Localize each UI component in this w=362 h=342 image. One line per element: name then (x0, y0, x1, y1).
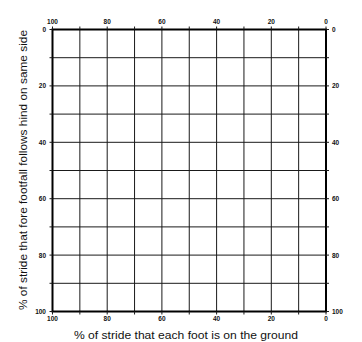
y-left-tick-40: 40 (39, 139, 47, 146)
y-right-tick-40: 40 (332, 139, 340, 146)
y-right-tick-60: 60 (332, 195, 340, 202)
y-axis-label: % of stride that fore footfall follows h… (17, 30, 29, 310)
x-top-tick-80: 80 (104, 18, 112, 25)
y-left-tick-60: 60 (39, 195, 47, 202)
y-right-tick-80: 80 (332, 252, 340, 259)
x-bottom-tick-60: 60 (158, 315, 166, 322)
x-bottom-tick-0: 0 (324, 315, 328, 322)
y-left-tick-80: 80 (39, 252, 47, 259)
y-axis-right-tick-labels: 0 20 40 60 80 100 (332, 26, 343, 315)
y-left-tick-20: 20 (39, 82, 47, 89)
y-axis-left-tick-labels: 0 20 40 60 80 100 (35, 26, 46, 315)
x-bottom-tick-40: 40 (213, 315, 221, 322)
y-right-tick-0: 0 (332, 26, 336, 33)
grid-lines (53, 30, 327, 312)
x-bottom-tick-20: 20 (268, 315, 276, 322)
y-right-tick-20: 20 (332, 82, 340, 89)
x-bottom-tick-80: 80 (104, 315, 112, 322)
x-top-tick-20: 20 (268, 18, 276, 25)
gait-grid-chart: 100 80 60 40 20 0 100 80 60 40 20 0 0 20… (0, 0, 362, 342)
x-top-tick-100: 100 (47, 18, 58, 25)
x-axis-bottom-tick-labels: 100 80 60 40 20 0 (47, 315, 328, 322)
x-bottom-tick-100: 100 (47, 315, 58, 322)
x-top-tick-60: 60 (158, 18, 166, 25)
y-right-tick-100: 100 (332, 308, 343, 315)
y-left-tick-100: 100 (35, 308, 46, 315)
x-top-tick-0: 0 (324, 18, 328, 25)
x-top-tick-40: 40 (213, 18, 221, 25)
x-axis-label: % of stride that each foot is on the gro… (74, 329, 298, 341)
y-left-tick-0: 0 (42, 26, 46, 33)
x-axis-top-tick-labels: 100 80 60 40 20 0 (47, 18, 328, 25)
